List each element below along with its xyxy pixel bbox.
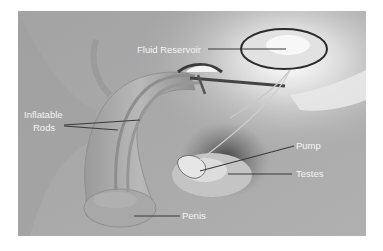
label-fluid-reservoir: Fluid Reservoir (137, 44, 201, 55)
label-inflatable: Inflatable (24, 109, 63, 120)
implant-diagram: Fluid Reservoir Inflatable Rods Pump Tes… (0, 0, 383, 251)
label-pump: Pump (296, 140, 321, 151)
label-rods: Rods (33, 122, 55, 133)
label-testes: Testes (296, 168, 324, 179)
label-penis: Penis (182, 210, 206, 221)
